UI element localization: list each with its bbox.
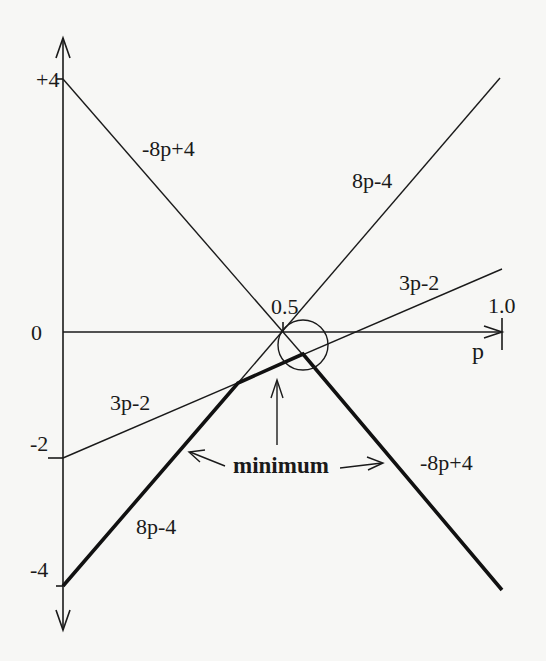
tick-label-zero: 0 <box>31 320 42 345</box>
label-8p4-upper: 8p-4 <box>352 168 392 193</box>
arrow-left-shaft <box>190 452 225 466</box>
y-axis <box>48 38 70 630</box>
line-neg8p4-upper <box>63 79 303 355</box>
x-axis <box>63 318 502 350</box>
tick-label-one: 1.0 <box>488 293 516 318</box>
label-8p4-lower: 8p-4 <box>136 514 176 539</box>
arrow-right-shaft <box>340 463 382 468</box>
label-3p2-lower: 3p-2 <box>110 390 150 415</box>
max-point-circle <box>278 320 328 370</box>
label-minimum: minimum <box>233 453 329 478</box>
label-3p2-upper: 3p-2 <box>399 270 439 295</box>
tick-label-half: 0.5 <box>271 294 299 319</box>
axis-label-p: p <box>472 338 484 364</box>
tick-label-minus4: -4 <box>30 557 48 582</box>
arrow-left-head-icon <box>189 450 205 462</box>
line-8p4-upper <box>238 78 500 383</box>
tick-label-minus2: -2 <box>30 431 48 456</box>
minimum-diagram: +4 0 -2 -4 0.5 1.0 p -8p+4 8p-4 3p-2 3p-… <box>0 0 546 661</box>
label-neg8p4-upper: -8p+4 <box>142 136 195 161</box>
tick-label-plus4: +4 <box>36 67 59 92</box>
label-neg8p4-lower: -8p+4 <box>420 450 473 475</box>
